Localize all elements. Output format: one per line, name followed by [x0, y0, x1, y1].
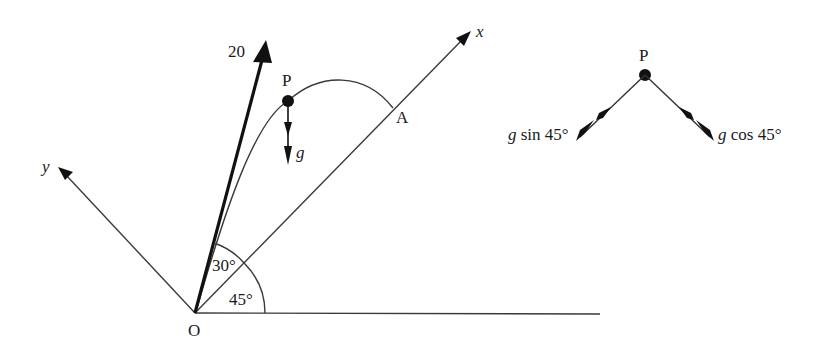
velocity-arrowhead-icon [253, 40, 272, 63]
component-x-arrowhead-icon [596, 107, 611, 120]
x-axis [195, 31, 471, 313]
components-particle-label: P [639, 46, 648, 65]
component-y-g: g [718, 125, 727, 144]
y-axis [58, 167, 195, 313]
component-x-g: g [508, 125, 517, 144]
component-x-text: sin 45° [517, 125, 569, 144]
x-axis-label: x [475, 22, 484, 41]
component-y-text: cos 45° [727, 125, 782, 144]
component-x-label: g sin 45° [508, 125, 569, 144]
angle-45-label: 45° [229, 290, 253, 309]
projectile-diagram: x y 20 P g A 45° 30° O P [0, 0, 832, 357]
particle-label: P [282, 71, 291, 90]
component-x-arrow [576, 75, 645, 141]
velocity-label: 20 [228, 42, 245, 61]
horizontal-line [195, 313, 600, 314]
component-y-arrowhead-icon [679, 107, 694, 120]
component-y-label: g cos 45° [718, 125, 781, 144]
y-axis-label: y [40, 157, 50, 176]
y-axis-arrowhead-icon [58, 167, 73, 180]
origin-label: O [188, 321, 200, 340]
gravity-arrowhead-icon [284, 122, 292, 136]
landing-label: A [396, 108, 409, 127]
gravity-label: g [296, 143, 305, 162]
angle-30-label: 30° [212, 256, 236, 275]
component-y-arrow [645, 75, 714, 141]
components-diagram: P g sin 45° g cos 45° [508, 46, 781, 144]
gravity-arrow [284, 105, 292, 165]
